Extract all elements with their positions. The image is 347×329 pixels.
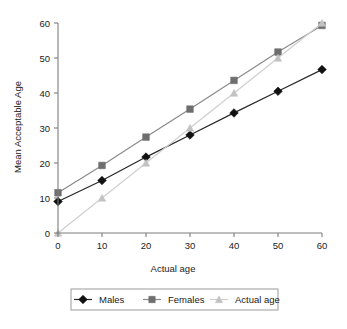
legend-label: Males: [99, 294, 125, 305]
data-point-marker: [231, 77, 238, 84]
x-axis-tick-label: 0: [55, 240, 60, 251]
x-axis-label: Actual age: [151, 263, 196, 274]
x-axis-tick-label: 30: [185, 240, 196, 251]
legend-label: Actual age: [235, 294, 280, 305]
y-axis-tick-label: 60: [39, 18, 50, 29]
x-axis-tick-label: 10: [97, 240, 108, 251]
data-point-marker: [99, 162, 106, 169]
square-marker-icon: [149, 296, 155, 302]
chart-legend: MalesFemalesActual age: [71, 289, 280, 310]
chart-svg: 01020304050600102030405060 Actual age Me…: [0, 0, 347, 329]
chart-canvas: 01020304050600102030405060 Actual age Me…: [0, 0, 347, 329]
y-axis-tick-label: 20: [39, 158, 50, 169]
x-axis-tick-label: 40: [229, 240, 240, 251]
y-axis-tick-label: 40: [39, 88, 50, 99]
chart-background: [0, 0, 347, 329]
y-axis-tick-label: 10: [39, 193, 50, 204]
x-axis-tick-label: 50: [273, 240, 284, 251]
chart-figure: 01020304050600102030405060 Actual age Me…: [0, 0, 347, 329]
data-point-marker: [143, 134, 150, 141]
legend-label: Females: [168, 294, 205, 305]
y-axis-tick-label: 0: [45, 228, 50, 239]
x-axis-tick-label: 60: [317, 240, 328, 251]
data-point-marker: [187, 106, 194, 113]
x-axis-tick-label: 20: [141, 240, 152, 251]
y-axis-label: Mean Acceptable Age: [12, 81, 23, 173]
y-axis-tick-label: 30: [39, 123, 50, 134]
y-axis-tick-label: 50: [39, 53, 50, 64]
